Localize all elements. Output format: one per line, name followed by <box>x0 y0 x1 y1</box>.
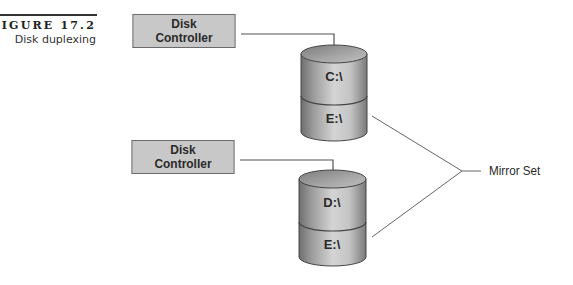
controller-label-line1: Disk <box>170 143 195 157</box>
controller-label-line2: Controller <box>155 31 212 45</box>
controller-label-line2: Controller <box>154 157 211 171</box>
partition-label: D:\ <box>323 195 341 210</box>
mirror-set-label: Mirror Set <box>489 163 540 178</box>
partition-label: E:\ <box>324 237 341 252</box>
diagram-canvas: C:\ E:\ D:\ E:\ <box>0 0 573 285</box>
controller-label-line1: Disk <box>171 17 196 31</box>
connector-line-1 <box>241 34 334 46</box>
partition-label: E:\ <box>326 111 343 126</box>
disk-controller-1: Disk Controller <box>132 14 235 48</box>
connector-line-2 <box>240 160 333 171</box>
disk-controller-2: Disk Controller <box>131 140 234 174</box>
disk-cylinder-1: C:\ E:\ <box>301 45 367 141</box>
mirror-set-bracket <box>372 116 481 237</box>
partition-label: C:\ <box>325 69 343 84</box>
disk-cylinder-2: D:\ E:\ <box>299 170 366 266</box>
